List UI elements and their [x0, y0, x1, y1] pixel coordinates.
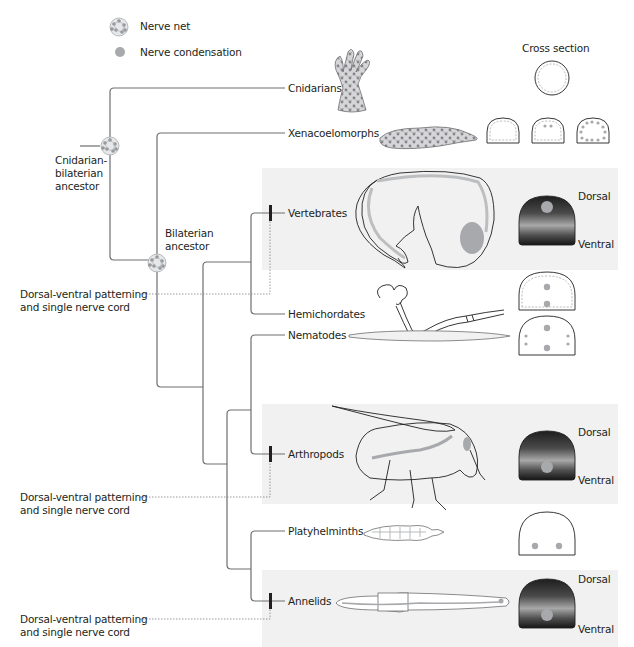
tree-branches — [80, 88, 285, 601]
dorsal-label-vertebrates: Dorsal — [578, 190, 610, 203]
nerve-net-icon — [110, 18, 128, 36]
cross-section-nematodes — [519, 316, 575, 355]
taxon-label-platyhelminths: Platyhelminths — [288, 525, 363, 538]
ventral-label-vertebrates: Ventral — [578, 238, 614, 251]
trait-bar-arthropods — [269, 446, 272, 462]
taxon-label-vertebrates: Vertebrates — [288, 207, 347, 220]
node-label-cnidarian-bilaterian: Cnidarian- bilaterian ancestor — [55, 154, 107, 193]
ventral-label-annelids: Ventral — [578, 623, 614, 636]
taxon-label-xenacoelomorphs: Xenacoelomorphs — [288, 127, 379, 140]
hemichordate-illustration — [377, 285, 504, 339]
cross-section-cnidarians — [535, 61, 569, 95]
phylogeny-diagram — [0, 0, 634, 647]
cross-section-header: Cross section — [522, 42, 589, 55]
node-label-bilaterian: Bilaterian ancestor — [165, 227, 213, 253]
platyhelminth-illustration — [364, 526, 444, 541]
cross-section-vertebrates — [519, 196, 575, 245]
legend-nerve-net-label: Nerve net — [140, 20, 190, 33]
trait-bar-annelids — [269, 593, 272, 609]
nerve-net-node-cnidarian-bilaterian — [101, 137, 119, 155]
taxon-label-hemichordates: Hemichordates — [288, 308, 365, 321]
taxon-label-annelids: Annelids — [288, 595, 331, 608]
cross-section-arthropods — [519, 431, 575, 480]
taxon-label-arthropods: Arthropods — [288, 448, 344, 461]
cnidarian-illustration — [335, 49, 370, 112]
cross-section-annelids — [519, 579, 575, 628]
dorsal-label-arthropods: Dorsal — [578, 426, 610, 439]
xenacoelomorph-illustration — [380, 127, 477, 149]
taxon-label-nematodes: Nematodes — [288, 329, 346, 342]
trait-bar-vertebrates — [269, 205, 272, 221]
nerve-net-node-bilaterian — [148, 254, 166, 272]
annotation-arthropods: Dorsal-ventral patterning and single ner… — [20, 491, 147, 517]
legend-nerve-condensation-label: Nerve condensation — [140, 46, 242, 59]
nerve-condensation-dot-icon — [115, 47, 125, 57]
annotation-vertebrates: Dorsal-ventral patterning and single ner… — [20, 288, 147, 314]
nematode-illustration — [349, 331, 510, 341]
cross-section-xenacoelomorphs — [487, 118, 609, 143]
cross-section-platyhelminths — [519, 512, 575, 555]
cross-section-hemichordates — [519, 272, 575, 310]
ventral-label-arthropods: Ventral — [578, 474, 614, 487]
taxon-label-cnidarians: Cnidarians — [288, 82, 342, 95]
annotation-annelids: Dorsal-ventral patterning and single ner… — [20, 613, 147, 639]
dorsal-label-annelids: Dorsal — [578, 573, 610, 586]
